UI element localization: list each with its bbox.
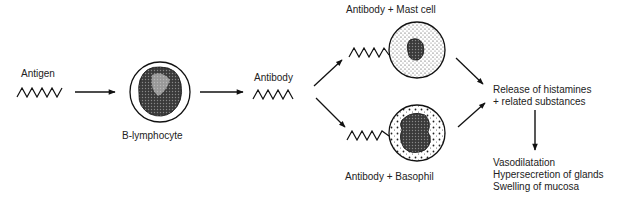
- arrow-antibody-to-mast-cell: [314, 60, 342, 86]
- antibody-basophil-label: Antibody + Basophil: [345, 171, 434, 183]
- effect-swelling: Swelling of mucosa: [493, 181, 579, 193]
- basophil-with-antibody-icon: [347, 105, 445, 161]
- arrow-mast-cell-to-release: [456, 58, 483, 84]
- histamine-release-label-line2: + related substances: [493, 96, 586, 108]
- antibody-mast-cell-label: Antibody + Mast cell: [346, 4, 436, 16]
- mast-cell-with-antibody-icon: [349, 22, 445, 78]
- arrow-antibody-to-basophil: [316, 98, 345, 127]
- antigen-zigzag-icon: [17, 88, 62, 97]
- effect-hypersecretion: Hypersecretion of glands: [493, 169, 604, 181]
- effect-vasodilatation: Vasodilatation: [493, 157, 555, 169]
- b-lymphocyte-cell-icon: [130, 62, 190, 122]
- arrow-basophil-to-release: [458, 103, 485, 127]
- antibody-zigzag-icon: [253, 90, 293, 99]
- antigen-label: Antigen: [21, 68, 55, 80]
- antibody-label: Antibody: [254, 72, 293, 84]
- b-lymphocyte-label: B-lymphocyte: [122, 130, 183, 142]
- histamine-release-label-line1: Release of histamines: [493, 84, 591, 96]
